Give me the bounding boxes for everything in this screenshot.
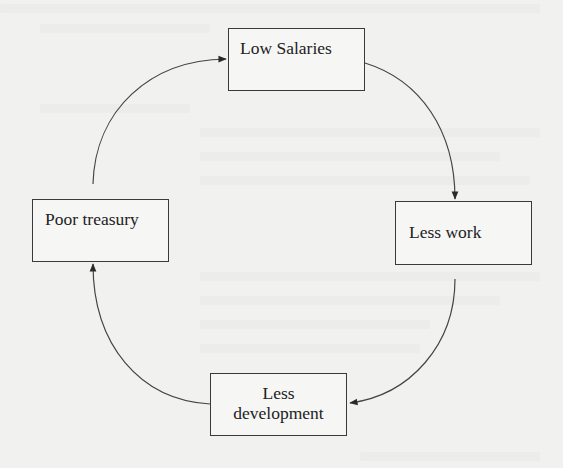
node-label: Low Salaries (240, 38, 332, 58)
node-label: Less development (211, 383, 346, 423)
node-label-line-2: development (211, 403, 346, 423)
node-low-salaries: Low Salaries (228, 28, 365, 91)
node-label-line-1: Less (211, 383, 346, 403)
node-label: Less work (409, 222, 481, 242)
arrow-poor-treasury-to-low-salaries (93, 59, 226, 184)
node-poor-treasury: Poor treasury (32, 199, 169, 262)
node-less-work: Less work (395, 201, 532, 265)
node-label: Poor treasury (45, 209, 139, 229)
arrow-low-salaries-to-less-work (365, 63, 455, 199)
node-less-development: Less development (210, 373, 347, 436)
arrow-less-work-to-less-development (350, 279, 455, 403)
arrow-less-development-to-poor-treasury (93, 264, 210, 404)
